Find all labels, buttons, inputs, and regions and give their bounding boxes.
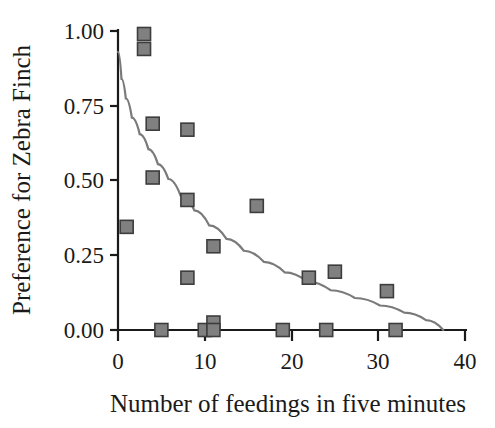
data-point xyxy=(380,285,393,298)
x-tick-label-1: 10 xyxy=(194,349,217,374)
figure-container: 1.00 0.75 0.50 0.25 0.00 0 10 20 30 40 N… xyxy=(0,0,495,428)
y-tick-label-0: 0.00 xyxy=(64,318,104,343)
fitted-decay-curve xyxy=(118,52,443,330)
x-axis-title: Number of feedings in five minutes xyxy=(110,390,466,417)
y-tick-marks xyxy=(110,31,118,330)
data-point xyxy=(276,324,289,337)
data-point xyxy=(181,193,194,206)
data-point xyxy=(120,220,133,233)
data-point-group xyxy=(120,27,402,336)
y-tick-label-1: 0.25 xyxy=(64,243,104,268)
data-point xyxy=(250,199,263,212)
y-tick-labels: 1.00 0.75 0.50 0.25 0.00 xyxy=(64,19,104,343)
scatter-plot: 1.00 0.75 0.50 0.25 0.00 0 10 20 30 40 N… xyxy=(0,0,495,428)
data-point xyxy=(207,324,220,337)
x-tick-marks xyxy=(118,330,465,341)
y-tick-label-4: 1.00 xyxy=(64,19,104,44)
x-tick-label-4: 40 xyxy=(454,349,477,374)
data-point xyxy=(155,324,168,337)
data-point xyxy=(146,171,159,184)
x-tick-label-3: 30 xyxy=(367,349,390,374)
data-point xyxy=(146,117,159,130)
x-tick-labels: 0 10 20 30 40 xyxy=(112,349,476,374)
data-point xyxy=(320,324,333,337)
data-point xyxy=(138,27,151,40)
y-tick-label-3: 0.75 xyxy=(64,94,104,119)
y-axis-title: Preference for Zebra Finch xyxy=(8,45,35,315)
y-tick-label-2: 0.50 xyxy=(64,168,104,193)
data-point xyxy=(207,240,220,253)
data-point xyxy=(181,271,194,284)
data-point xyxy=(302,271,315,284)
data-point xyxy=(389,324,402,337)
data-point xyxy=(328,265,341,278)
x-tick-label-0: 0 xyxy=(112,349,124,374)
x-tick-label-2: 20 xyxy=(281,349,304,374)
data-point xyxy=(181,123,194,136)
data-point xyxy=(138,42,151,55)
